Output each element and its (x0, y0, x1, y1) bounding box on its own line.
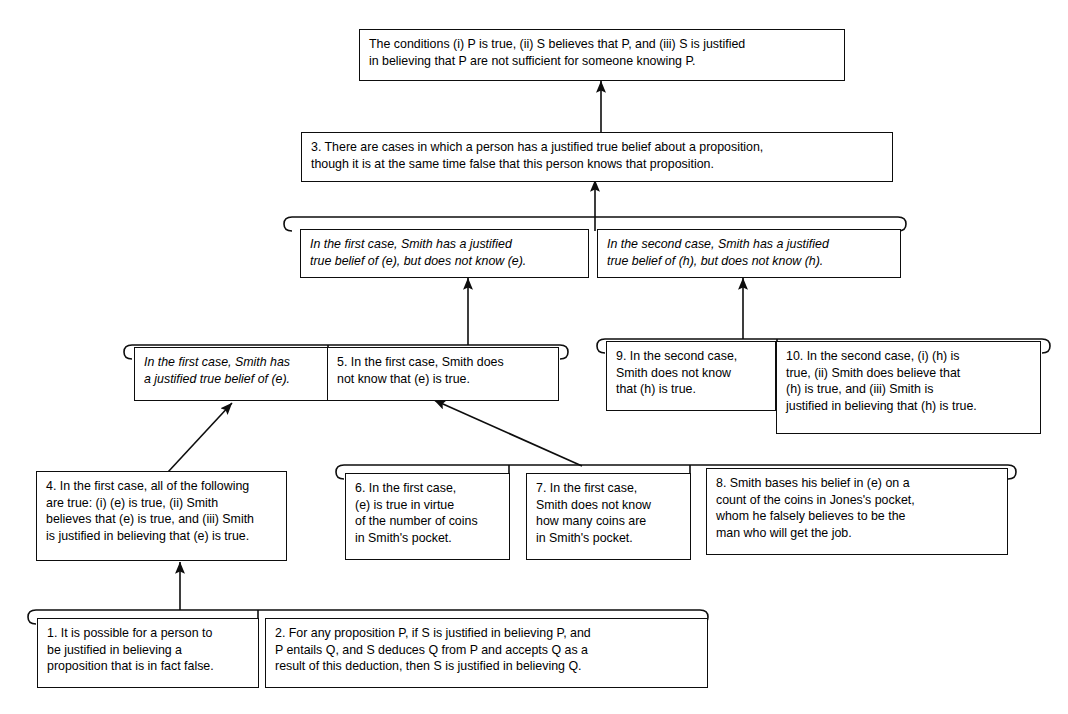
node-second-case-summary[interactable]: In the second case, Smith has a justifie… (597, 229, 901, 278)
node-first-case-jtb[interactable]: In the first case, Smith has a justified… (134, 347, 330, 401)
node-premise-4[interactable]: 4. In the first case, all of the followi… (36, 471, 287, 561)
node-conclusion[interactable]: The conditions (i) P is true, (ii) S bel… (359, 29, 845, 81)
node-premise-2[interactable]: 2. For any proposition P, if S is justif… (265, 618, 708, 688)
node-premise-1[interactable]: 1. It is possible for a person to be jus… (37, 618, 259, 688)
node-premise-6[interactable]: 6. In the first case, (e) is true in vir… (345, 473, 510, 560)
node-premise-10[interactable]: 10. In the second case, (i) (h) is true,… (776, 341, 1041, 434)
node-premise-9[interactable]: 9. In the second case, Smith does not kn… (606, 341, 776, 411)
node-premise-3[interactable]: 3. There are cases in which a person has… (301, 132, 893, 182)
node-premise-5[interactable]: 5. In the first case, Smith does not kno… (327, 347, 559, 401)
node-premise-8[interactable]: 8. Smith bases his belief in (e) on a co… (706, 468, 1008, 555)
arrow-n4-to-first-case-jtb (168, 403, 232, 472)
arrow-678-to-n5 (434, 400, 582, 466)
argument-diagram-canvas: The conditions (i) P is true, (ii) S bel… (0, 0, 1068, 714)
node-first-case-summary[interactable]: In the first case, Smith has a justified… (300, 229, 589, 278)
node-premise-7[interactable]: 7. In the first case, Smith does not kno… (526, 473, 691, 560)
